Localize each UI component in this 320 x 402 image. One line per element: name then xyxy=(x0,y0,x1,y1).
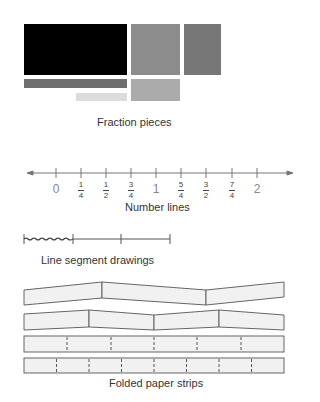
flat-strip-eighths xyxy=(24,358,284,373)
line-segment-caption: Line segment drawings xyxy=(41,254,154,266)
tick-label-1: 1 xyxy=(146,182,166,196)
tick-label-1-4: 1 4 xyxy=(71,181,91,200)
tick-label-0: 0 xyxy=(46,182,66,196)
flat-strip-sixths xyxy=(24,336,284,352)
left-arrow-icon xyxy=(27,171,33,175)
tick-label-7-4: 7 4 xyxy=(222,181,242,200)
tick-label-3-4: 3 4 xyxy=(121,181,141,200)
folded-strip-fourths xyxy=(24,310,284,330)
number-line xyxy=(27,168,293,178)
right-arrow-icon xyxy=(287,171,293,175)
tick-label-5-4: 5 4 xyxy=(171,181,191,200)
number-lines-caption: Number lines xyxy=(125,201,190,213)
tick-label-2: 2 xyxy=(247,182,267,196)
folded-strip-thirds xyxy=(24,282,284,305)
paper-strips-caption: Folded paper strips xyxy=(109,377,203,389)
tick-label-3-2: 3 2 xyxy=(196,181,216,200)
tick-label-1-2: 1 2 xyxy=(96,181,116,200)
line-segment xyxy=(24,234,170,244)
